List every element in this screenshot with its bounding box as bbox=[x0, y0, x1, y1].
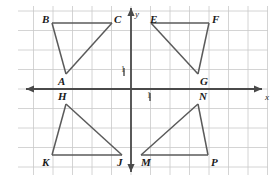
vertex-label-b: B bbox=[42, 14, 49, 25]
vertex-label-h: H bbox=[58, 91, 67, 102]
vertex-label-k: K bbox=[42, 157, 49, 168]
vertex-label-g: G bbox=[200, 76, 208, 87]
x-axis-arrow-left bbox=[26, 85, 34, 92]
y-unit-tick-label: 1 bbox=[121, 66, 125, 74]
vertex-label-n: N bbox=[199, 91, 207, 102]
vertex-label-a: A bbox=[58, 76, 65, 87]
grid-lines bbox=[18, 6, 268, 175]
vertex-label-e: E bbox=[150, 14, 157, 25]
vertex-label-p: P bbox=[211, 157, 218, 168]
x-axis-arrow-right bbox=[254, 85, 262, 92]
coordinate-plane-svg bbox=[0, 0, 278, 181]
coordinate-plane-figure: ABCEFGHKJMNP x y 1 1 bbox=[0, 0, 278, 181]
y-axis-arrow-down bbox=[127, 164, 134, 172]
y-axis-label: y bbox=[135, 10, 139, 19]
vertex-label-m: M bbox=[141, 157, 151, 168]
x-axis-label: x bbox=[265, 93, 269, 102]
x-unit-tick-label: 1 bbox=[147, 92, 151, 100]
vertex-label-j: J bbox=[117, 157, 123, 168]
vertex-label-c: C bbox=[114, 14, 121, 25]
vertex-label-f: F bbox=[212, 14, 219, 25]
y-axis-arrow-up bbox=[127, 8, 134, 16]
